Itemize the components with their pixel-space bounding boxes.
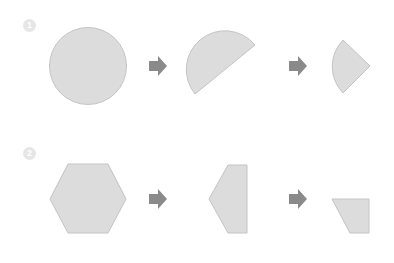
semicircle-shape bbox=[186, 31, 255, 94]
arrow-right-icon bbox=[149, 56, 167, 76]
diagram-canvas: 1 2 bbox=[0, 0, 394, 263]
arrow-right-icon bbox=[149, 189, 167, 209]
half-hexagon-shape bbox=[209, 165, 247, 233]
arrow-right-icon bbox=[289, 189, 307, 209]
trapezoid-shape bbox=[332, 199, 369, 233]
arrow-right-icon bbox=[289, 56, 307, 76]
shapes-svg bbox=[0, 0, 394, 263]
circle-shape bbox=[50, 28, 127, 105]
quarter-circle-shape bbox=[332, 40, 370, 93]
hexagon-shape bbox=[50, 164, 126, 233]
